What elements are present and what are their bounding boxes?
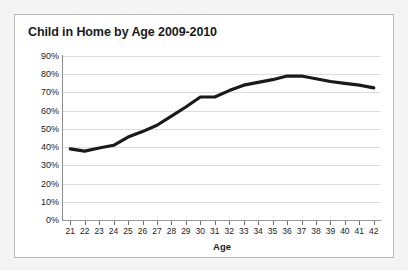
x-axis-label-30: 30	[196, 226, 205, 236]
y-axis-label-50: 50%	[19, 124, 59, 134]
x-tick-26	[143, 221, 144, 225]
chart-frame: Child in Home by Age 2009-2010 90%80%70%…	[14, 14, 394, 258]
chart-screenshot: Child in Home by Age 2009-2010 90%80%70%…	[0, 0, 408, 270]
y-axis-label-30: 30%	[19, 160, 59, 170]
x-axis-label-37: 37	[297, 226, 306, 236]
x-axis-label-36: 36	[282, 226, 291, 236]
y-axis-label-60: 60%	[19, 106, 59, 116]
x-tick-22	[85, 221, 86, 225]
x-tick-30	[200, 221, 201, 225]
x-tick-37	[302, 221, 303, 225]
x-tick-23	[99, 221, 100, 225]
x-axis-label-40: 40	[340, 226, 349, 236]
x-tick-21	[70, 221, 71, 225]
y-axis-label-10: 10%	[19, 197, 59, 207]
x-axis-tick-labels: 2122232425262728293031323334353637383940…	[63, 226, 381, 239]
x-axis-label-35: 35	[268, 226, 277, 236]
x-axis-label-41: 41	[355, 226, 364, 236]
y-axis-tick-labels: 90%80%70%60%50%40%30%20%10%0%	[15, 56, 59, 220]
y-axis-label-70: 70%	[19, 87, 59, 97]
x-axis-title: Age	[63, 241, 381, 252]
x-tick-36	[287, 221, 288, 225]
plot-area	[63, 56, 381, 220]
x-axis-label-32: 32	[224, 226, 233, 236]
x-axis-label-26: 26	[138, 226, 147, 236]
x-tick-29	[186, 221, 187, 225]
x-tick-31	[215, 221, 216, 225]
x-tick-32	[229, 221, 230, 225]
x-tick-33	[244, 221, 245, 225]
x-tick-34	[258, 221, 259, 225]
x-tick-27	[157, 221, 158, 225]
x-axis-label-23: 23	[94, 226, 103, 236]
x-tick-40	[345, 221, 346, 225]
x-axis-label-42: 42	[369, 226, 378, 236]
x-tick-28	[171, 221, 172, 225]
x-axis-label-29: 29	[181, 226, 190, 236]
x-tick-35	[273, 221, 274, 225]
y-axis-label-40: 40%	[19, 142, 59, 152]
x-axis-label-34: 34	[253, 226, 262, 236]
y-axis-label-20: 20%	[19, 179, 59, 189]
x-tick-39	[330, 221, 331, 225]
x-tick-42	[374, 221, 375, 225]
x-axis-label-28: 28	[167, 226, 176, 236]
chart-title: Child in Home by Age 2009-2010	[28, 25, 217, 39]
x-axis-label-31: 31	[210, 226, 219, 236]
y-axis-label-0: 0%	[19, 215, 59, 225]
x-axis-label-25: 25	[123, 226, 132, 236]
x-axis-label-39: 39	[326, 226, 335, 236]
x-axis-label-22: 22	[80, 226, 89, 236]
x-axis-label-38: 38	[311, 226, 320, 236]
x-axis-label-33: 33	[239, 226, 248, 236]
x-tick-24	[114, 221, 115, 225]
x-axis-label-21: 21	[65, 226, 74, 236]
y-axis-label-90: 90%	[19, 51, 59, 61]
x-tick-25	[128, 221, 129, 225]
x-axis-label-24: 24	[109, 226, 118, 236]
x-tick-38	[316, 221, 317, 225]
x-axis-label-27: 27	[152, 226, 161, 236]
x-tick-41	[359, 221, 360, 225]
series-line-child-in-home	[63, 56, 381, 220]
y-axis-label-80: 80%	[19, 69, 59, 79]
